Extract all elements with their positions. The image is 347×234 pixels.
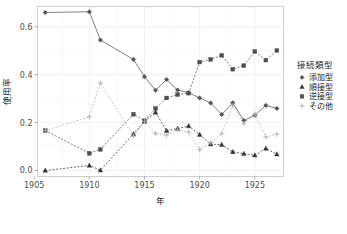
legend-item-0[interactable]: 添加型 (300, 72, 333, 82)
data-point-square-marker (132, 112, 136, 116)
legend-item-label: 添加型 (309, 72, 333, 82)
plot-area-background (38, 7, 284, 177)
y-tick-label: 0.0 (20, 166, 33, 175)
legend-item-3[interactable]: その他 (300, 101, 333, 111)
data-point-square-marker (231, 67, 235, 71)
data-point-square-marker (300, 95, 304, 99)
data-point-square-marker (209, 58, 213, 62)
data-point-square-marker (264, 58, 268, 62)
x-tick-label: 1925 (245, 181, 265, 190)
x-axis-tick-labels: 19051910191519201925 (24, 181, 265, 190)
data-point-square-marker (176, 93, 180, 97)
data-point-square-marker (165, 96, 169, 100)
data-point-plus-marker (300, 103, 305, 108)
legend: 接続類型 添加型順接型逆接型その他 (297, 60, 333, 111)
legend-item-label: 順接型 (309, 82, 333, 92)
x-tick-label: 1920 (189, 181, 209, 190)
legend-title: 接続類型 (297, 60, 333, 70)
data-point-square-marker (220, 53, 224, 57)
data-point-square-marker (253, 50, 257, 54)
line-chart: 19051910191519201925 0.00.20.40.6 年 使用率 … (0, 0, 347, 234)
x-axis-title: 年 (156, 196, 165, 206)
data-point-square-marker (98, 148, 102, 152)
data-point-square-marker (242, 64, 246, 68)
data-point-square-marker (154, 107, 158, 111)
panel-background (38, 7, 284, 177)
y-axis-title: 使用率 (2, 78, 12, 105)
chart-container: 19051910191519201925 0.00.20.40.6 年 使用率 … (0, 0, 347, 234)
data-point-square-marker (275, 49, 279, 53)
x-tick-label: 1905 (24, 181, 44, 190)
legend-item-1[interactable]: 順接型 (300, 82, 333, 92)
y-axis-tick-labels: 0.00.20.40.6 (20, 23, 33, 176)
x-tick-label: 1910 (79, 181, 99, 190)
data-point-diamond-marker (300, 75, 304, 79)
data-point-square-marker (187, 91, 191, 95)
data-point-square-marker (198, 60, 202, 64)
y-tick-label: 0.2 (20, 119, 33, 128)
x-tick-label: 1915 (134, 181, 154, 190)
legend-item-2[interactable]: 逆接型 (300, 91, 333, 101)
y-tick-label: 0.4 (20, 71, 33, 80)
legend-item-label: その他 (309, 101, 333, 111)
data-point-square-marker (87, 151, 91, 155)
data-point-triangle-marker (300, 85, 304, 89)
legend-item-label: 逆接型 (309, 91, 333, 101)
y-tick-label: 0.6 (20, 23, 33, 32)
